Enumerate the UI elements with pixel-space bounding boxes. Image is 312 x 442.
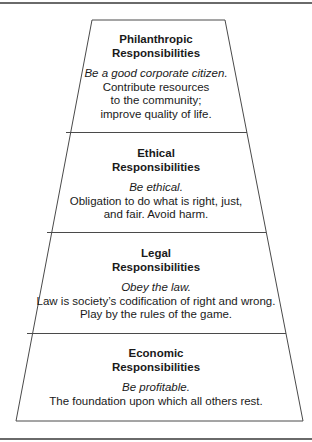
tier-ethical: Ethical Responsibilities Be ethical. Obl… xyxy=(50,147,262,222)
tier-title: Responsibilities xyxy=(50,161,262,175)
tier-body-line: Contribute resources xyxy=(70,81,242,95)
tier-title: Philanthropic xyxy=(70,33,242,47)
tier-title: Ethical xyxy=(50,147,262,161)
tier-motto: Be a good corporate citizen. xyxy=(70,67,242,81)
tier-philanthropic: Philanthropic Responsibilities Be a good… xyxy=(70,33,242,121)
tier-body-line: to the community; xyxy=(70,94,242,108)
tier-title: Responsibilities xyxy=(70,47,242,61)
tier-title: Economic xyxy=(20,347,292,361)
tier-motto: Be profitable. xyxy=(20,381,292,395)
tier-body-line: improve quality of life. xyxy=(70,108,242,122)
tier-motto: Be ethical. xyxy=(50,181,262,195)
tier-body-line: and fair. Avoid harm. xyxy=(50,208,262,222)
tier-body-line: Play by the rules of the game. xyxy=(26,308,286,322)
tier-body-line: Obligation to do what is right, just, xyxy=(50,195,262,209)
tier-body-line: Law is society’s codification of right a… xyxy=(26,295,286,309)
bottom-rule xyxy=(0,438,312,440)
tier-title: Responsibilities xyxy=(26,261,286,275)
tier-legal: Legal Responsibilities Obey the law. Law… xyxy=(26,247,286,322)
tier-body-line: The foundation upon which all others res… xyxy=(20,395,292,409)
tier-motto: Obey the law. xyxy=(26,281,286,295)
tier-economic: Economic Responsibilities Be profitable.… xyxy=(20,347,292,408)
tier-title: Responsibilities xyxy=(20,361,292,375)
tier-title: Legal xyxy=(26,247,286,261)
